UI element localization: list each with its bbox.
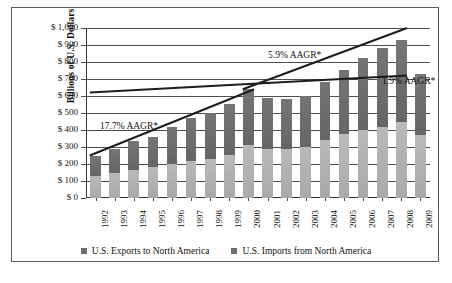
y-tick-mark <box>81 181 86 182</box>
x-tick-mark <box>96 198 97 201</box>
bar-segment-imports <box>339 134 350 198</box>
legend-item: U.S. Exports to North America <box>81 246 210 256</box>
bar-segment-imports <box>281 149 292 198</box>
x-tick-label: 2005 <box>348 210 358 228</box>
y-tick-mark <box>81 164 86 165</box>
y-tick-label: $ 700 <box>32 73 78 83</box>
x-tick-mark <box>248 198 249 201</box>
x-tick-label: 1997 <box>195 210 205 228</box>
annotation-label: 5.9% AAGR* <box>268 50 321 60</box>
bar-group <box>396 40 407 198</box>
bar-group <box>415 74 426 198</box>
bar-group <box>205 113 216 198</box>
bar-segment-exports <box>224 104 235 155</box>
x-tick-label: 2000 <box>252 210 262 228</box>
bar-group <box>186 118 197 198</box>
bar-group <box>358 58 369 198</box>
legend-swatch-exports-icon <box>81 248 87 254</box>
y-tick-label: $ 200 <box>32 158 78 168</box>
chart-figure: Billions of U.S. Dollars $ 0$ 100$ 200$ … <box>0 0 452 283</box>
x-tick-label: 1999 <box>233 210 243 228</box>
x-tick-mark <box>115 198 116 201</box>
bar-segment-imports <box>224 155 235 198</box>
legend-swatch-imports-icon <box>231 248 237 254</box>
bar-segment-imports <box>358 130 369 198</box>
bar-segment-imports <box>415 135 426 198</box>
plot-area: $ 0$ 100$ 200$ 300$ 400$ 500$ 600$ 700$ … <box>86 28 430 198</box>
x-tick-mark <box>382 198 383 201</box>
x-tick-label: 1993 <box>119 210 129 228</box>
y-tick-label: $ 300 <box>32 141 78 151</box>
bar-segment-exports <box>148 137 159 168</box>
bar-segment-exports <box>186 118 197 161</box>
bar-segment-exports <box>243 89 254 145</box>
bar-segment-exports <box>90 156 101 176</box>
annotation-label: 17.7% AAGR* <box>100 121 158 131</box>
bar-segment-exports <box>377 48 388 128</box>
bar-group <box>224 104 235 198</box>
bar-segment-imports <box>377 127 388 198</box>
bar-group <box>243 89 254 198</box>
bar-segment-imports <box>262 149 273 198</box>
y-tick-label: $ 1,000 <box>32 22 78 32</box>
x-tick-mark <box>287 198 288 201</box>
y-tick-label: $ 800 <box>32 56 78 66</box>
x-tick-label: 2007 <box>386 210 396 228</box>
bar-group <box>90 156 101 199</box>
bar-group <box>262 98 273 198</box>
y-tick-label: $ 600 <box>32 90 78 100</box>
bar-segment-imports <box>90 176 101 198</box>
bar-segment-imports <box>205 159 216 198</box>
bar-segment-imports <box>396 122 407 199</box>
x-tick-label: 1998 <box>214 210 224 228</box>
bar-segment-exports <box>262 98 273 149</box>
bar-group <box>320 82 331 198</box>
bar-group <box>339 70 350 198</box>
y-tick-mark <box>81 45 86 46</box>
x-tick-mark <box>420 198 421 201</box>
bar-segment-imports <box>148 167 159 198</box>
y-tick-label: $ 0 <box>32 192 78 202</box>
x-tick-mark <box>325 198 326 201</box>
x-tick-mark <box>268 198 269 201</box>
x-tick-mark <box>153 198 154 201</box>
bar-segment-imports <box>243 145 254 198</box>
y-tick-label: $ 900 <box>32 39 78 49</box>
y-tick-mark <box>81 28 86 29</box>
bar-segment-exports <box>281 99 292 149</box>
gridline <box>86 28 430 29</box>
bar-segment-imports <box>300 147 311 198</box>
x-tick-mark <box>401 198 402 201</box>
x-tick-mark <box>344 198 345 201</box>
x-tick-label: 1994 <box>138 210 148 228</box>
y-tick-mark <box>81 113 86 114</box>
y-tick-mark <box>81 62 86 63</box>
bar-group <box>148 137 159 198</box>
x-tick-label: 1996 <box>176 210 186 228</box>
y-tick-label: $ 100 <box>32 175 78 185</box>
legend-item: U.S. Imports from North America <box>231 246 371 256</box>
x-tick-label: 2009 <box>424 210 434 228</box>
bar-segment-imports <box>167 164 178 198</box>
y-tick-mark <box>81 79 86 80</box>
bar-segment-imports <box>109 173 120 198</box>
x-tick-label: 1992 <box>100 210 110 228</box>
bar-group <box>109 149 120 198</box>
x-tick-mark <box>134 198 135 201</box>
x-tick-label: 1995 <box>157 210 167 228</box>
legend-label: U.S. Imports from North America <box>242 246 371 256</box>
y-tick-label: $ 500 <box>32 107 78 117</box>
y-tick-mark <box>81 198 86 199</box>
x-tick-mark <box>229 198 230 201</box>
chart-frame: Billions of U.S. Dollars $ 0$ 100$ 200$ … <box>11 7 439 262</box>
y-tick-label: $ 400 <box>32 124 78 134</box>
x-tick-label: 2002 <box>291 210 301 228</box>
bar-group <box>128 141 139 198</box>
x-tick-mark <box>363 198 364 201</box>
bar-segment-exports <box>167 127 178 164</box>
bar-segment-exports <box>128 141 139 170</box>
bar-segment-exports <box>358 58 369 130</box>
x-tick-label: 2004 <box>329 210 339 228</box>
bar-group <box>281 99 292 198</box>
bar-group <box>377 48 388 198</box>
